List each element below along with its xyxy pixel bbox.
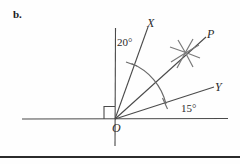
- bottom-divider: [0, 156, 240, 158]
- compass-arc-star-icon: [170, 39, 200, 68]
- angle-arc: [132, 64, 167, 105]
- ray-label-x: X: [147, 17, 154, 29]
- angle-label-20: 20°: [117, 37, 132, 48]
- horizontal-axis-line: [22, 119, 228, 120]
- origin-label: O: [112, 122, 121, 134]
- right-angle-marker-icon: [104, 107, 115, 120]
- geometry-figure: b. 20° X P Y 15° O: [0, 0, 240, 164]
- ray-label-y: Y: [215, 81, 222, 93]
- figure-canvas: [0, 0, 240, 164]
- ray-label-p: P: [207, 28, 214, 40]
- angle-label-15: 15°: [181, 103, 196, 114]
- part-label: b.: [13, 9, 22, 20]
